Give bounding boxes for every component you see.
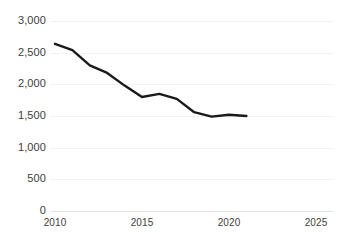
series-layer [0, 0, 337, 238]
line-chart: 3,0002,5002,0001,5001,0005000 2010201520… [0, 0, 337, 238]
series-line [55, 44, 246, 117]
